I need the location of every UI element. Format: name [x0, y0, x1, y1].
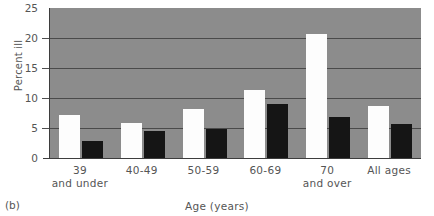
bar — [368, 106, 389, 158]
bar — [267, 104, 288, 158]
bar — [59, 115, 80, 158]
gridline — [50, 128, 421, 129]
y-tick-mark — [42, 38, 49, 39]
bar — [391, 124, 412, 158]
y-tick-mark — [42, 68, 49, 69]
bar — [82, 141, 103, 158]
y-tick-mark — [42, 98, 49, 99]
y-tick-mark — [42, 128, 49, 129]
y-tick-label: 0 — [18, 153, 38, 163]
gridline — [50, 98, 421, 99]
y-tick-label: 20 — [18, 33, 38, 43]
figure-panel: Percent ill 0510152025 Age (years) (b) 3… — [0, 0, 434, 216]
y-tick-label: 15 — [18, 63, 38, 73]
y-tick-label: 10 — [18, 93, 38, 103]
plot-area — [49, 8, 421, 158]
bar — [329, 117, 350, 158]
x-axis-line — [43, 158, 421, 159]
bar — [144, 131, 165, 158]
panel-label: (b) — [5, 199, 20, 211]
bar — [121, 123, 142, 158]
bar — [306, 34, 327, 158]
gridline — [50, 68, 421, 69]
y-tick-label: 5 — [18, 123, 38, 133]
x-axis-label: Age (years) — [0, 200, 434, 212]
bar — [244, 90, 265, 158]
x-category-label: All ages — [344, 164, 434, 177]
gridline — [50, 38, 421, 39]
bar — [183, 109, 204, 158]
y-tick-label: 25 — [18, 3, 38, 13]
bar — [206, 129, 227, 158]
